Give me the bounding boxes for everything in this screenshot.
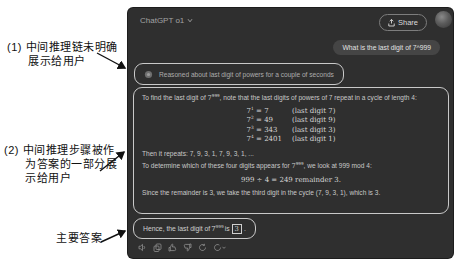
- equation-3-note: (last digit 3): [292, 126, 335, 136]
- read-aloud-icon[interactable]: [138, 243, 147, 252]
- assistant-answer-box: To find the last digit of 7999, note tha…: [133, 87, 449, 214]
- equation-4: 74 = 2401: [247, 135, 282, 145]
- chevron-down-icon: [187, 18, 193, 23]
- switch-model-icon[interactable]: [213, 243, 226, 252]
- model-selector[interactable]: ChatGPT o1: [140, 16, 193, 25]
- answer-paragraph-1: To find the last digit of 7999, note tha…: [142, 93, 440, 104]
- annotation-note-1: (1) 中间推理链未明确 展示给用户: [7, 40, 118, 68]
- user-message-bubble: What is the last digit of 7^999: [333, 40, 440, 55]
- equation-2-note: (last digit 9): [292, 116, 335, 126]
- regenerate-icon[interactable]: [198, 243, 207, 252]
- share-button[interactable]: Share: [379, 14, 427, 31]
- final-answer-prefix: Hence, the last digit of: [143, 225, 210, 232]
- message-actions: [138, 243, 226, 252]
- answer-paragraph-2: Then it repeats: 7, 9, 3, 1, 7, 9, 3, 1,…: [142, 149, 440, 160]
- thumbs-down-icon[interactable]: [183, 243, 192, 252]
- share-button-label: Share: [398, 18, 418, 27]
- annotation-note-2: (2) 中间推理步骤被作 为答案的一部分展 示给用户: [4, 143, 117, 185]
- annotation-note-2-line3: 示给用户: [4, 171, 117, 185]
- thumbs-up-icon[interactable]: [168, 243, 177, 252]
- model-selector-label: ChatGPT o1: [140, 16, 184, 25]
- mod-equation: 999 ÷ 4 = 249 remainder 3.: [142, 175, 440, 185]
- user-message-text: What is the last digit of 7^999: [342, 44, 431, 51]
- arrow-3: [101, 231, 125, 242]
- annotation-note-1-line2: 展示给用户: [7, 54, 118, 68]
- boxed-answer: 3: [232, 224, 242, 234]
- answer-paragraph-3: To determine which of these four digits …: [142, 161, 440, 172]
- cycle-equations-block: 71 = 7 (last digit 7) 72 = 49 (last digi…: [142, 107, 440, 145]
- reasoning-summary-text: Reasoned about last digit of powers for …: [159, 71, 334, 78]
- chatgpt-window: ChatGPT o1 Share What is the last digit …: [128, 8, 453, 258]
- annotation-note-main-answer: 主要答案: [56, 231, 102, 245]
- annotation-note-2-line2: 为答案的一部分展: [4, 157, 117, 171]
- final-answer-row: Hence, the last digit of 7999 is 3.: [133, 218, 256, 239]
- equation-4-note: (last digit 1): [292, 135, 335, 145]
- reasoning-icon: [144, 70, 153, 79]
- reasoning-summary-row[interactable]: Reasoned about last digit of powers for …: [134, 63, 344, 85]
- answer-paragraph-4: Since the remainder is 3, we take the th…: [142, 188, 440, 199]
- share-icon: [388, 19, 395, 27]
- copy-icon[interactable]: [153, 243, 162, 252]
- user-avatar[interactable]: [435, 11, 452, 28]
- annotation-note-2-line1: (2) 中间推理步骤被作: [4, 143, 117, 157]
- equation-1-note: (last digit 7): [292, 107, 335, 117]
- annotation-note-1-line1: (1) 中间推理链未明确: [7, 40, 118, 54]
